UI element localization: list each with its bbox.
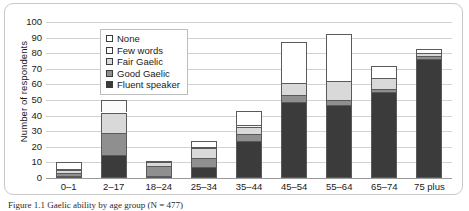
bar-segment (326, 34, 352, 81)
y-tick-label: 40 (2, 111, 42, 121)
y-tick-label: 100 (2, 17, 42, 27)
figure-caption: Figure 1.1 Gaelic ability by age group (… (8, 200, 463, 210)
legend-swatch (106, 35, 113, 42)
legend-label: Fair Gaelic (117, 57, 163, 67)
bar-segment (281, 95, 307, 101)
legend-item: Fluent speaker (106, 79, 180, 91)
x-tick-label: 2–17 (91, 182, 136, 192)
x-tick-label: 35–44 (226, 182, 271, 192)
bar-segment (326, 105, 352, 178)
bar-3 (146, 161, 172, 178)
bar-segment (416, 59, 442, 178)
legend-label: None (117, 34, 140, 44)
chart-legend: NoneFew wordsFair GaelicGood GaelicFluen… (100, 29, 188, 95)
bar-segment (146, 166, 172, 177)
bar-segment (101, 133, 127, 155)
bar-segment (236, 127, 262, 135)
x-tick-label: 55–64 (317, 182, 362, 192)
legend-item: Fair Gaelic (106, 56, 180, 68)
legend-item: Few words (106, 45, 180, 57)
y-tick-label: 60 (2, 79, 42, 89)
bar-5 (236, 111, 262, 178)
figure-container: Number of respondents 100908070605040302… (0, 0, 469, 211)
bar-segment (191, 167, 217, 178)
bar-1 (56, 162, 82, 178)
bar-2 (101, 100, 127, 178)
bar-segment (101, 100, 127, 112)
bar-segment (236, 125, 262, 127)
y-tick-label: 70 (2, 64, 42, 74)
y-tick-label: 20 (2, 142, 42, 152)
bar-segment (191, 141, 217, 147)
x-tick-label: 0–1 (46, 182, 91, 192)
x-tick-label: 75 plus (407, 182, 452, 192)
bar-segment (191, 148, 217, 157)
x-axis-tick-labels: 0–12–1718–2425–3435–4445–5455–6465–7475 … (46, 182, 452, 196)
bar-7 (326, 34, 352, 178)
bar-segment (326, 81, 352, 100)
bar-segment (146, 162, 172, 165)
y-tick-label: 50 (2, 95, 42, 105)
y-tick-label: 10 (2, 157, 42, 167)
bar-segment (326, 100, 352, 105)
bar-segment (371, 78, 397, 89)
bar-4 (191, 141, 217, 178)
legend-item: None (106, 33, 180, 45)
legend-item: Good Gaelic (106, 68, 180, 80)
bar-8 (371, 66, 397, 178)
bar-segment (281, 83, 307, 95)
x-tick-label: 65–74 (362, 182, 407, 192)
bar-segment (236, 141, 262, 178)
bar-6 (281, 42, 307, 178)
legend-swatch (106, 47, 113, 54)
bar-segment (371, 92, 397, 178)
gridline (46, 22, 452, 23)
y-tick-label: 0 (2, 173, 42, 183)
bar-segment (416, 53, 442, 56)
x-tick-label: 25–34 (181, 182, 226, 192)
bar-segment (281, 102, 307, 178)
bar-segment (281, 42, 307, 83)
y-tick-label: 90 (2, 33, 42, 43)
legend-label: Few words (117, 46, 163, 56)
bar-segment (191, 147, 217, 149)
bar-segment (56, 170, 82, 173)
bar-segment (146, 161, 172, 163)
bar-9 (416, 49, 442, 178)
bar-segment (371, 89, 397, 92)
y-tick-label: 80 (2, 48, 42, 58)
bar-segment (56, 169, 82, 171)
x-tick-label: 45–54 (272, 182, 317, 192)
x-tick-label: 18–24 (136, 182, 181, 192)
legend-label: Good Gaelic (117, 69, 170, 79)
gridline (46, 178, 452, 179)
bar-segment (416, 49, 442, 54)
y-axis-tick-labels: 1009080706050403020100 (0, 22, 42, 178)
bar-segment (101, 155, 127, 178)
y-tick-label: 30 (2, 126, 42, 136)
legend-swatch (106, 81, 113, 88)
bar-segment (101, 113, 127, 133)
bar-segment (236, 134, 262, 140)
bar-segment (236, 111, 262, 125)
bar-segment (191, 158, 217, 167)
legend-label: Fluent speaker (117, 80, 180, 90)
bar-segment (56, 173, 82, 176)
bar-segment (56, 162, 82, 168)
legend-swatch (106, 70, 113, 77)
bar-segment (371, 66, 397, 78)
legend-swatch (106, 58, 113, 65)
bar-segment (416, 56, 442, 59)
